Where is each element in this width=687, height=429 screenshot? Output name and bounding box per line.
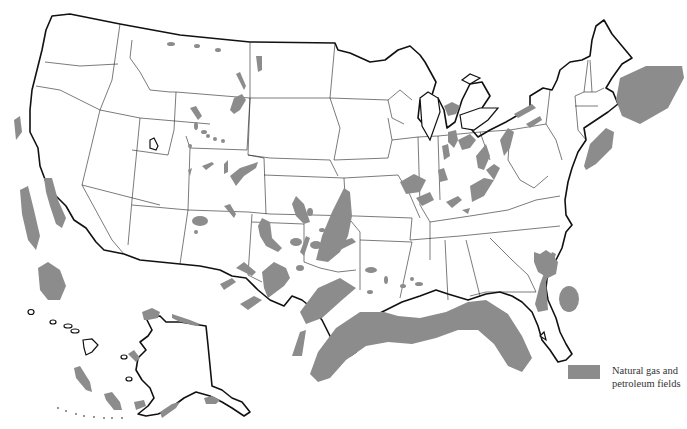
alaska-outline [136,316,250,416]
map-legend: Natural gas and petroleum fields [568,364,687,390]
legend-label-fields: Natural gas and petroleum fields [612,364,687,390]
aleutian-islands [57,407,123,419]
legend-swatch-fields [568,365,600,379]
